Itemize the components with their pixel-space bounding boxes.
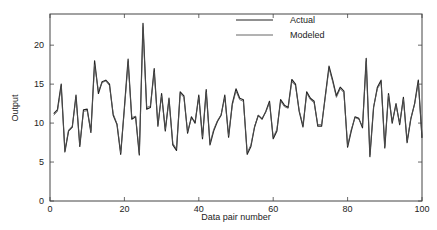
x-axis-label: Data pair number xyxy=(201,212,271,222)
y-tick-label: 15 xyxy=(34,79,44,89)
y-tick-label: 10 xyxy=(34,118,44,128)
y-tick-label: 5 xyxy=(39,157,44,167)
x-tick-label: 0 xyxy=(47,204,52,214)
x-tick-label: 80 xyxy=(343,204,353,214)
y-tick-label: 20 xyxy=(34,40,44,50)
legend-label-modeled: Modeled xyxy=(290,30,325,40)
line-chart: 05101520 020406080100 Actual Modeled Dat… xyxy=(0,0,437,230)
legend-label-actual: Actual xyxy=(290,15,315,25)
y-tick-label: 0 xyxy=(39,196,44,206)
x-tick-label: 100 xyxy=(414,204,429,214)
x-tick-label: 20 xyxy=(119,204,129,214)
plot-area xyxy=(50,14,422,201)
y-axis-label: Output xyxy=(10,94,20,122)
